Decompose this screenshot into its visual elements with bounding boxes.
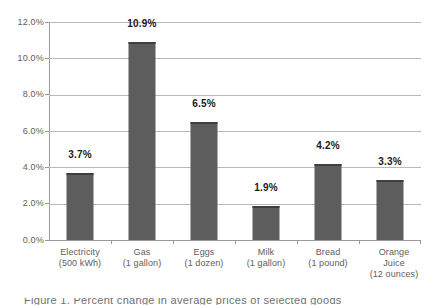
category-line: (1 gallon) <box>111 258 173 269</box>
x-axis-tick <box>359 240 360 244</box>
x-axis-tick <box>297 240 298 244</box>
category-line: (1 pound) <box>297 258 359 269</box>
x-axis-category-label-gas: Gas (1 gallon) <box>111 247 173 269</box>
y-axis-tick-label: 8.0% <box>2 89 44 99</box>
x-axis-category-label-orange-juice: Orange Juice (12 ounces) <box>359 247 429 280</box>
y-axis-tick-label: 0.0% <box>2 235 44 245</box>
bar-value-label: 6.5% <box>192 98 216 109</box>
category-line: Gas <box>111 247 173 258</box>
bar-slot-electricity: 3.7% <box>49 22 111 240</box>
bar-slot-gas: 10.9% <box>111 22 173 240</box>
bar-value-label: 4.2% <box>316 140 340 151</box>
bar-eggs[interactable] <box>191 122 218 240</box>
x-axis-tick <box>173 240 174 244</box>
y-axis-tick-label: 4.0% <box>2 162 44 172</box>
x-axis-tick <box>420 240 421 244</box>
category-line: (12 ounces) <box>359 269 429 280</box>
bar-electricity[interactable] <box>67 173 94 240</box>
bar-slot-eggs: 6.5% <box>173 22 235 240</box>
category-line: Juice <box>359 258 429 269</box>
x-axis-tick <box>235 240 236 244</box>
bar-chart-figure: 12.0% 10.0% 8.0% 6.0% 4.0% 2.0% 0.0% 3.7… <box>0 0 434 305</box>
y-axis-tick-label: 6.0% <box>2 126 44 136</box>
bar-value-label: 1.9% <box>254 182 278 193</box>
x-axis-tick <box>111 240 112 244</box>
y-axis-tick-label: 12.0% <box>2 17 44 27</box>
bar-bread[interactable] <box>315 164 342 240</box>
x-axis-category-label-eggs: Eggs (1 dozen) <box>173 247 235 269</box>
bar-orange-juice[interactable] <box>377 180 404 240</box>
x-axis-category-label-bread: Bread (1 pound) <box>297 247 359 269</box>
category-line: Bread <box>297 247 359 258</box>
category-line: Milk <box>235 247 297 258</box>
bar-slot-orange-juice: 3.3% <box>359 22 421 240</box>
bar-slot-milk: 1.9% <box>235 22 297 240</box>
figure-caption-text: Figure 1. Percent change in average pric… <box>24 298 342 305</box>
category-line: Eggs <box>173 247 235 258</box>
category-line: Electricity <box>49 247 111 258</box>
x-axis-category-label-electricity: Electricity (500 kWh) <box>49 247 111 269</box>
category-line: (500 kWh) <box>49 258 111 269</box>
bar-value-label: 3.7% <box>68 149 92 160</box>
y-axis-tick-label: 2.0% <box>2 198 44 208</box>
bar-slot-bread: 4.2% <box>297 22 359 240</box>
bar-milk[interactable] <box>253 206 280 240</box>
category-line: (1 dozen) <box>173 258 235 269</box>
bar-value-label: 3.3% <box>378 156 402 167</box>
plot-area: 3.7% 10.9% 6.5% 1.9% 4.2% 3.3% <box>49 22 421 240</box>
category-line: Orange <box>359 247 429 258</box>
category-line: (1 gallon) <box>235 258 297 269</box>
y-axis-tick-label: 10.0% <box>2 53 44 63</box>
bar-gas[interactable] <box>129 42 156 240</box>
bar-value-label: 10.9% <box>127 18 156 29</box>
x-axis-category-label-milk: Milk (1 gallon) <box>235 247 297 269</box>
figure-caption-clipped: Figure 1. Percent change in average pric… <box>0 298 434 305</box>
